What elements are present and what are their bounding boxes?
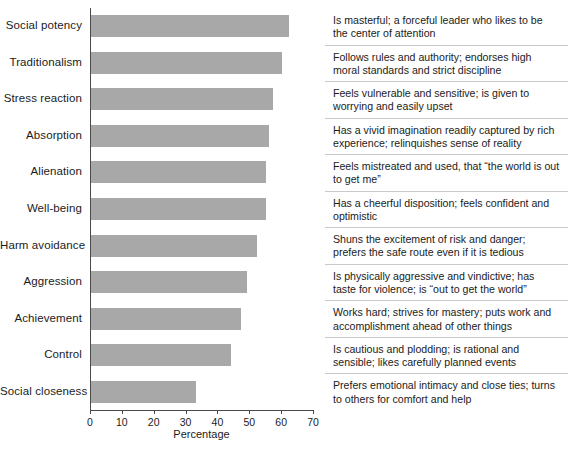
x-axis-tick-label: 20 bbox=[148, 416, 160, 428]
category-label: Traditionalism bbox=[0, 56, 82, 68]
x-axis-title: Percentage bbox=[90, 428, 313, 440]
category-label: Alienation bbox=[0, 165, 82, 177]
description-row: Follows rules and authority; endorses hi… bbox=[325, 45, 568, 82]
x-axis-tick bbox=[281, 410, 282, 414]
row-divider bbox=[325, 264, 568, 265]
bar bbox=[91, 235, 257, 257]
row-divider bbox=[325, 154, 568, 155]
description-row: Is physically aggressive and vindictive;… bbox=[325, 264, 568, 301]
description-text: Feels mistreated and used, that “the wor… bbox=[333, 160, 560, 186]
x-axis-tick-label: 30 bbox=[180, 416, 192, 428]
x-axis-tick bbox=[313, 410, 314, 414]
description-row: Has a vivid imagination readily captured… bbox=[325, 118, 568, 155]
description-row: Shuns the excitement of risk and danger;… bbox=[325, 227, 568, 264]
row-divider bbox=[325, 45, 568, 46]
x-axis-tick bbox=[122, 410, 123, 414]
row-divider bbox=[325, 118, 568, 119]
description-row: Feels mistreated and used, that “the wor… bbox=[325, 154, 568, 191]
row-divider bbox=[325, 373, 568, 374]
x-axis-tick-label: 50 bbox=[243, 416, 255, 428]
description-text: Is masterful; a forceful leader who like… bbox=[333, 14, 560, 40]
description-text: Is physically aggressive and vindictive;… bbox=[333, 270, 560, 296]
x-axis-tick-label: 40 bbox=[212, 416, 224, 428]
bar bbox=[91, 381, 196, 403]
x-axis-tick bbox=[186, 410, 187, 414]
row-divider bbox=[325, 227, 568, 228]
bar bbox=[91, 125, 269, 147]
category-label: Control bbox=[0, 348, 82, 360]
x-axis-tick-label: 10 bbox=[116, 416, 128, 428]
category-label: Well-being bbox=[0, 202, 82, 214]
plot-area: 010203040506070 bbox=[90, 8, 313, 410]
category-label: Achievement bbox=[0, 312, 82, 324]
category-label: Absorption bbox=[0, 129, 82, 141]
category-label: Aggression bbox=[0, 275, 82, 287]
x-axis-tick bbox=[249, 410, 250, 414]
category-label: Social closeness bbox=[0, 385, 82, 397]
x-axis-tick bbox=[217, 410, 218, 414]
description-row: Has a cheerful disposition; feels confid… bbox=[325, 191, 568, 228]
x-axis-tick-label: 70 bbox=[307, 416, 319, 428]
category-label-column: Social potencyTraditionalismStress react… bbox=[0, 0, 82, 420]
category-label: Social potency bbox=[0, 19, 82, 31]
x-axis-tick bbox=[90, 410, 91, 414]
category-label: Harm avoidance bbox=[0, 239, 82, 251]
description-text: Works hard; strives for mastery; puts wo… bbox=[333, 306, 560, 332]
category-label: Stress reaction bbox=[0, 92, 82, 104]
bar bbox=[91, 271, 247, 293]
row-divider bbox=[325, 300, 568, 301]
bar bbox=[91, 88, 273, 110]
bar bbox=[91, 198, 266, 220]
bar bbox=[91, 15, 289, 37]
x-axis-tick-label: 0 bbox=[87, 416, 93, 428]
bar bbox=[91, 344, 231, 366]
description-column: Is masterful; a forceful leader who like… bbox=[325, 0, 571, 420]
bar bbox=[91, 52, 282, 74]
row-divider bbox=[325, 191, 568, 192]
bar bbox=[91, 308, 241, 330]
description-row: Is masterful; a forceful leader who like… bbox=[325, 8, 568, 45]
description-text: Has a cheerful disposition; feels confid… bbox=[333, 197, 560, 223]
x-axis-tick bbox=[154, 410, 155, 414]
bar bbox=[91, 161, 266, 183]
description-row: Feels vulnerable and sensitive; is given… bbox=[325, 81, 568, 118]
chart-figure: Social potencyTraditionalismStress react… bbox=[0, 0, 571, 456]
description-row: Is cautious and plodding; is rational an… bbox=[325, 337, 568, 374]
description-row: Works hard; strives for mastery; puts wo… bbox=[325, 300, 568, 337]
row-divider bbox=[325, 337, 568, 338]
description-row: Prefers emotional intimacy and close tie… bbox=[325, 373, 568, 410]
description-text: Feels vulnerable and sensitive; is given… bbox=[333, 87, 560, 113]
description-text: Has a vivid imagination readily captured… bbox=[333, 124, 560, 150]
description-text: Shuns the excitement of risk and danger;… bbox=[333, 233, 560, 259]
description-text: Is cautious and plodding; is rational an… bbox=[333, 343, 560, 369]
description-text: Follows rules and authority; endorses hi… bbox=[333, 51, 560, 77]
description-text: Prefers emotional intimacy and close tie… bbox=[333, 379, 560, 405]
x-axis-tick-label: 60 bbox=[275, 416, 287, 428]
row-divider bbox=[325, 81, 568, 82]
